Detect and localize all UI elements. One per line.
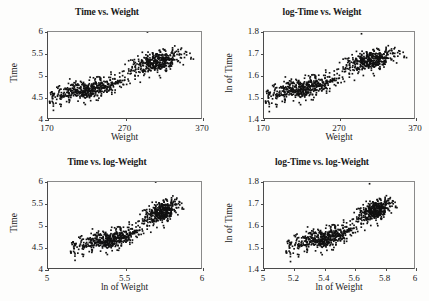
x-axis-label: ln of Weight [47,282,202,292]
x-tick-mark [416,268,417,271]
panel-logtime-vs-logweight: log-Time vs. log-Weight 1.41.51.61.71.8 … [215,150,429,300]
panel-time-vs-weight: Time vs. Weight 44.555.56 170270370 Weig… [0,0,214,150]
scatter-points [264,182,414,268]
plot-area [263,181,415,269]
y-tick-label: 1.6 [248,70,259,80]
x-tick-mark [126,268,127,271]
y-tick-mark [261,204,264,205]
panel-title: Time vs. Weight [0,7,214,17]
x-tick-mark [203,118,204,121]
plot-area [47,31,202,119]
y-tick-label: 5 [39,220,44,230]
y-tick-label: 1.8 [248,176,259,186]
y-axis-label: ln of Time [224,193,234,253]
x-axis-label: ln of Weight [263,282,415,292]
y-tick-label: 4 [39,264,44,274]
scatter-points [48,182,201,268]
panel-title: Time vs. log-Weight [0,157,214,167]
y-tick-label: 1.8 [248,26,259,36]
x-tick-mark [126,118,127,121]
x-tick-mark [340,118,341,121]
x-tick-mark [416,118,417,121]
y-tick-label: 4.5 [32,92,43,102]
x-tick-mark [325,268,326,271]
plot-area [47,181,202,269]
y-tick-mark [261,98,264,99]
y-axis-label: Time [9,53,19,93]
y-tick-mark [261,76,264,77]
y-tick-label: 5.5 [32,198,43,208]
y-tick-label: 4.5 [32,242,43,252]
x-tick-mark [294,268,295,271]
y-tick-mark [45,98,48,99]
y-tick-mark [261,182,264,183]
x-axis-label: Weight [47,132,202,142]
y-tick-mark [261,54,264,55]
y-tick-label: 5.5 [32,48,43,58]
y-tick-mark [45,248,48,249]
x-tick-mark [386,268,387,271]
panel-title: log-Time vs. log-Weight [215,157,429,167]
scatter-points [48,32,201,118]
plot-area [263,31,415,119]
scatterplot-matrix-figure: Time vs. Weight 44.555.56 170270370 Weig… [0,0,429,301]
x-tick-mark [48,118,49,121]
x-tick-mark [48,268,49,271]
y-tick-label: 6 [39,176,44,186]
panel-title: log-Time vs. Weight [215,7,429,17]
scatter-points [264,32,414,118]
y-tick-label: 1.7 [248,48,259,58]
y-tick-mark [45,226,48,227]
y-tick-mark [261,248,264,249]
x-tick-mark [203,268,204,271]
y-tick-label: 6 [39,26,44,36]
y-tick-label: 1.5 [248,92,259,102]
y-tick-mark [45,32,48,33]
y-tick-label: 1.4 [248,264,259,274]
x-tick-mark [264,118,265,121]
y-tick-mark [45,182,48,183]
y-axis-label: ln of Time [224,43,234,103]
x-tick-mark [355,268,356,271]
x-axis-label: Weight [263,132,415,142]
y-tick-mark [261,32,264,33]
y-tick-mark [261,226,264,227]
y-tick-label: 1.5 [248,242,259,252]
y-tick-label: 1.7 [248,198,259,208]
y-tick-mark [45,204,48,205]
x-tick-mark [264,268,265,271]
y-tick-label: 1.6 [248,220,259,230]
y-tick-label: 5 [39,70,44,80]
panel-time-vs-logweight: Time vs. log-Weight 44.555.56 55.56 ln o… [0,150,214,300]
y-tick-mark [45,54,48,55]
panel-logtime-vs-weight: log-Time vs. Weight 1.41.51.61.71.8 1702… [215,0,429,150]
y-axis-label: Time [9,203,19,243]
y-tick-mark [45,76,48,77]
